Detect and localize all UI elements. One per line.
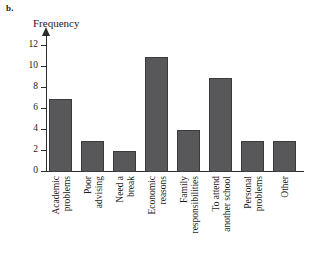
bar-slot [174,36,204,172]
x-axis-category-label-text: Familyresponsibilities [179,176,200,234]
y-tick-label-text: 0 [14,166,38,176]
bar-slot [46,36,76,172]
category-label-line: another school [221,176,232,232]
x-axis-category-label-text: To attendanother school [211,176,232,232]
y-tick-label: 10 [14,61,38,71]
y-tick-label: 6 [14,103,38,113]
category-label-line: To attend [211,176,222,232]
y-axis-title: Frequency [33,17,79,29]
y-tick-label-text: 2 [14,145,38,155]
x-axis-category-label-text: Need abreak [115,176,136,203]
y-tick-label-text: 4 [14,124,38,134]
y-tick-label: 12 [14,40,38,50]
y-tick-label-text: 6 [14,103,38,113]
bar-chart: b. Frequency 024681012 AcademicproblemsP… [0,0,321,256]
x-axis-category-label: Need abreak [110,176,140,254]
plot-area [46,36,304,172]
bar [145,57,168,172]
x-axis-category-label-text: Other [280,176,291,198]
category-label-line: Poor [83,176,94,208]
bar [241,141,264,172]
category-label-line: break [125,176,136,203]
y-tick-label-text: 8 [14,82,38,92]
category-label-line: Personal [243,176,254,211]
bar-slot [78,36,108,172]
x-axis-category-label: Economicreasons [142,176,172,254]
category-label-line: Family [179,176,190,234]
bar [209,78,232,172]
category-label-line: reasons [157,176,168,215]
bar [273,141,296,172]
x-axis-category-label: Pooradvising [78,176,108,254]
category-label-line: Need a [115,176,126,203]
panel-label: b. [6,3,14,13]
bar [81,141,104,172]
x-axis-category-label-text: Academicproblems [51,176,72,215]
category-label-line: advising [93,176,104,208]
bar-slot [270,36,300,172]
x-axis-category-label-text: Pooradvising [83,176,104,208]
category-label-line: problems [61,176,72,215]
y-tick-label: 2 [14,145,38,155]
bar-slot [206,36,236,172]
y-tick-label: 8 [14,82,38,92]
category-label-line: problems [253,176,264,211]
y-tick-label: 4 [14,124,38,134]
x-axis-category-label-text: Personalproblems [243,176,264,211]
x-axis-category-label: Familyresponsibilities [174,176,204,254]
category-label-line: Other [280,176,291,198]
category-label-line: responsibilities [189,176,200,234]
x-axis-category-label: To attendanother school [206,176,236,254]
category-label-line: Economic [147,176,158,215]
category-label-line: Academic [51,176,62,215]
x-axis-category-label: Personalproblems [238,176,268,254]
bar [113,151,136,172]
x-axis-category-label: Academicproblems [46,176,76,254]
bar [177,130,200,172]
y-tick-label-text: 10 [14,61,38,71]
bar-slot [142,36,172,172]
bar-slot [110,36,140,172]
x-axis-category-label: Other [270,176,300,254]
x-axis-category-label-text: Economicreasons [147,176,168,215]
y-tick-label-text: 12 [14,40,38,50]
bar [49,99,72,172]
bar-slot [238,36,268,172]
y-tick-label: 0 [14,166,38,176]
